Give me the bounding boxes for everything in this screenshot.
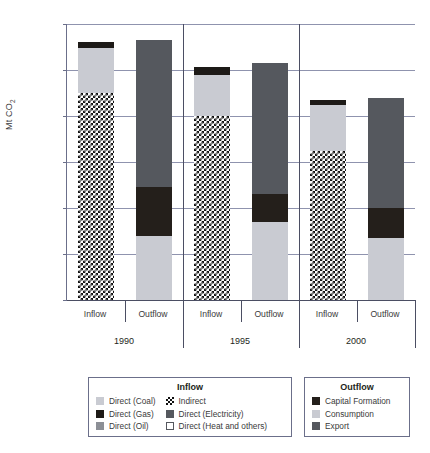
legend-item[interactable]: Consumption <box>312 409 390 419</box>
legend-item-label: Capital Formation <box>325 396 390 406</box>
legend-item[interactable]: Indirect <box>166 396 268 406</box>
y-axis-title-text: Mt CO <box>4 103 14 130</box>
legend-swatch-icon <box>166 410 174 418</box>
bar-segment <box>194 116 230 300</box>
year-group-separator <box>299 24 300 348</box>
bar-1995-outflow[interactable] <box>252 63 288 300</box>
legend-item[interactable]: Direct (Electricity) <box>166 409 268 419</box>
y-axis-title-subscript: 2 <box>9 99 16 103</box>
bar-segment <box>252 222 288 300</box>
bar-segment <box>136 236 172 300</box>
x-axis-label-outflow: Outflow <box>240 309 298 319</box>
bar-segment <box>252 194 288 222</box>
legend-item[interactable]: Direct (Gas) <box>96 409 156 419</box>
legend-columns: Direct (Coal)Direct (Gas)Direct (Oil)Ind… <box>89 396 291 436</box>
x-axis-label-inflow: Inflow <box>66 309 124 319</box>
y-axis-tick-mark <box>63 300 67 301</box>
legend-item[interactable]: Direct (Oil) <box>96 421 156 431</box>
legend-column: Capital FormationConsumptionExport <box>312 396 390 431</box>
bar-1990-outflow[interactable] <box>136 40 172 300</box>
legend-item-label: Direct (Heat and others) <box>179 421 268 431</box>
legend-swatch-icon <box>312 397 320 405</box>
legend-outflow: OutflowCapital FormationConsumptionExpor… <box>304 377 410 437</box>
x-axis-label-outflow: Outflow <box>356 309 414 319</box>
legend-swatch-icon <box>96 410 104 418</box>
legend-column: Direct (Coal)Direct (Gas)Direct (Oil) <box>96 396 156 431</box>
bar-segment <box>194 75 230 116</box>
legend-item-label: Direct (Electricity) <box>179 409 244 419</box>
legend-item-label: Export <box>325 421 349 431</box>
x-axis-label-outflow: Outflow <box>124 309 182 319</box>
bar-segment <box>252 63 288 194</box>
bar-segment <box>78 48 114 93</box>
legend-swatch-icon <box>96 397 104 405</box>
x-axis-label-inflow: Inflow <box>298 309 356 319</box>
legend-swatch-icon <box>312 422 320 430</box>
legend-inflow: InflowDirect (Coal)Direct (Gas)Direct (O… <box>88 377 292 437</box>
chart-page: Mt CO2 120,000100,00080,00060,00040,0002… <box>0 0 430 453</box>
y-axis-title: Mt CO2 <box>4 50 16 130</box>
bar-segment <box>310 151 346 301</box>
legend-columns: Capital FormationConsumptionExport <box>305 396 409 436</box>
bar-series <box>67 24 415 300</box>
year-group-separator <box>415 300 416 348</box>
bar-2000-inflow[interactable] <box>310 100 346 300</box>
legend-title: Inflow <box>89 382 291 392</box>
bar-1995-inflow[interactable] <box>194 67 230 300</box>
legend-item-label: Direct (Gas) <box>109 409 154 419</box>
x-axis-label-inflow: Inflow <box>182 309 240 319</box>
legend-swatch-icon <box>166 422 174 430</box>
legend-column: IndirectDirect (Electricity)Direct (Heat… <box>166 396 268 431</box>
legend-item-label: Indirect <box>179 396 206 406</box>
bar-segment <box>368 238 404 300</box>
bar-2000-outflow[interactable] <box>368 98 404 300</box>
bar-segment <box>78 93 114 300</box>
plot-area: 120,000100,00080,00060,00040,00020,0000 <box>66 24 414 300</box>
x-axis-year-2000: 2000 <box>298 336 414 346</box>
bar-segment <box>136 40 172 187</box>
legend-swatch-icon <box>96 422 104 430</box>
legend-item-label: Consumption <box>325 409 374 419</box>
year-group-separator <box>183 24 184 348</box>
legend-item[interactable]: Direct (Coal) <box>96 396 156 406</box>
legend-swatch-icon <box>312 410 320 418</box>
legend-item[interactable]: Export <box>312 421 390 431</box>
bar-1990-inflow[interactable] <box>78 42 114 300</box>
x-axis-year-1995: 1995 <box>182 336 298 346</box>
bar-segment <box>194 67 230 75</box>
legend-item[interactable]: Direct (Heat and others) <box>166 421 268 431</box>
bar-segment <box>368 208 404 238</box>
bar-segment <box>368 98 404 208</box>
legend-item[interactable]: Capital Formation <box>312 396 390 406</box>
bar-segment <box>310 105 346 151</box>
legend-swatch-icon <box>166 397 174 405</box>
x-axis-year-1990: 1990 <box>66 336 182 346</box>
legend-title: Outflow <box>305 382 409 392</box>
bar-segment <box>136 187 172 235</box>
legend-item-label: Direct (Coal) <box>109 396 156 406</box>
legend-item-label: Direct (Oil) <box>109 421 149 431</box>
